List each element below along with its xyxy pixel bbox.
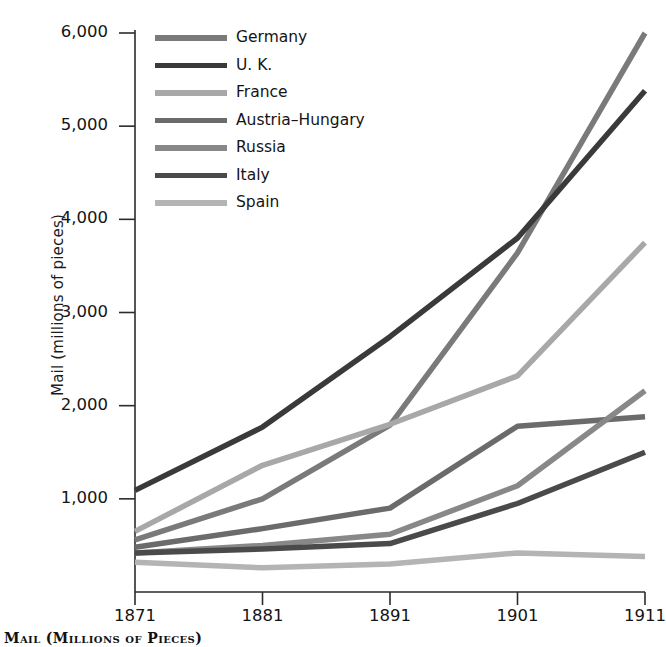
x-tick-label: 1881 — [242, 606, 284, 625]
legend-item[interactable]: Russia — [155, 134, 415, 162]
legend-item[interactable]: Austria–Hungary — [155, 107, 415, 135]
legend-label: Russia — [236, 140, 286, 156]
legend-item[interactable]: Spain — [155, 189, 415, 217]
x-tick-label: 1911 — [624, 606, 666, 625]
legend-color-swatch — [155, 118, 227, 124]
x-tick-label: 1901 — [497, 606, 539, 625]
y-tick-label: 5,000 — [46, 117, 108, 134]
y-tick-label: 1,000 — [46, 490, 108, 507]
y-tick-marks — [119, 33, 135, 499]
y-axis-tick-labels: 1,0002,0003,0004,0005,0006,000 — [46, 0, 108, 647]
legend-label: France — [236, 85, 288, 101]
legend-color-swatch — [155, 90, 227, 96]
legend-item[interactable]: U. K. — [155, 52, 415, 80]
y-tick-label: 2,000 — [46, 397, 108, 414]
chart-legend: GermanyU. K.FranceAustria–HungaryRussiaI… — [155, 24, 415, 217]
legend-label: U. K. — [236, 58, 272, 74]
figure-caption: Mail (Millions of Pieces) — [4, 630, 202, 646]
legend-item[interactable]: Italy — [155, 162, 415, 190]
legend-label: Spain — [236, 195, 279, 211]
legend-color-swatch — [155, 200, 227, 206]
legend-color-swatch — [155, 63, 227, 69]
legend-color-swatch — [155, 35, 227, 41]
y-tick-label: 3,000 — [46, 304, 108, 321]
legend-label: Austria–Hungary — [236, 113, 365, 129]
legend-label: Italy — [236, 168, 270, 184]
y-tick-label: 4,000 — [46, 210, 108, 227]
x-tick-label: 1871 — [114, 606, 156, 625]
legend-color-swatch — [155, 145, 227, 151]
legend-item[interactable]: France — [155, 79, 415, 107]
x-tick-label: 1891 — [369, 606, 411, 625]
legend-color-swatch — [155, 173, 227, 179]
legend-item[interactable]: Germany — [155, 24, 415, 52]
legend-label: Germany — [236, 30, 307, 46]
y-tick-label: 6,000 — [46, 24, 108, 41]
x-axis-tick-labels: 18711881189119011911 — [0, 598, 659, 626]
